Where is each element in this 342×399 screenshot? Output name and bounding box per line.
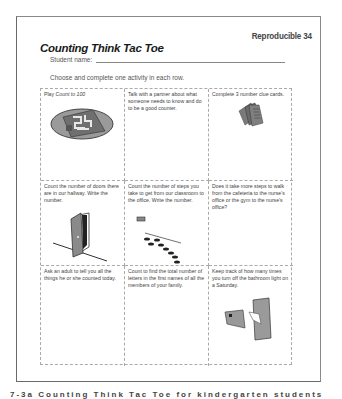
activity-cell-1: Play Count to 100 — [41, 89, 125, 181]
reproducible-label: Reproducible 34 — [252, 30, 312, 41]
activity-text: Count to find the total number of letter… — [128, 268, 205, 289]
think-tac-toe-grid: Play Count to 100 Talk with a partner ab… — [40, 88, 292, 365]
footsteps-icon — [135, 213, 195, 265]
activity-text: Does it take more steps to walk from the… — [212, 183, 290, 211]
activity-text: Count the number of steps you take to ge… — [128, 183, 205, 204]
light-switch-icon — [223, 296, 283, 344]
activity-cell-9: Keep track of how many times you turn of… — [209, 266, 293, 366]
activity-text: Talk with a partner about what someone n… — [128, 91, 205, 112]
activity-cell-3: Complete 3 number clue cards. — [209, 89, 293, 181]
page-title: Counting Think Tac Toe — [40, 42, 164, 54]
activity-cell-2: Talk with a partner about what someone n… — [125, 89, 209, 181]
student-name-label: Student name: — [50, 56, 92, 63]
student-name-field[interactable] — [96, 56, 285, 63]
activity-text: Complete 3 number clue cards. — [212, 91, 290, 98]
activity-cell-6: Does it take more steps to walk from the… — [209, 181, 293, 266]
instructions: Choose and complete one activity in each… — [50, 74, 184, 81]
activity-text: Ask an adult to tell you all the things … — [44, 268, 121, 282]
activity-cell-7: Ask an adult to tell you all the things … — [41, 266, 125, 366]
activity-cell-5: Count the number of steps you take to ge… — [125, 181, 209, 266]
student-name-row: Student name: — [50, 56, 285, 63]
activity-text: Count the number of doors there are in o… — [44, 183, 121, 204]
board-game-icon — [49, 107, 115, 141]
activity-cell-4: Count the number of doors there are in o… — [41, 181, 125, 266]
door-icon — [51, 211, 111, 263]
activity-text: Play Count to 100 — [44, 91, 121, 98]
cards-icon — [237, 101, 265, 129]
activity-text: Keep track of how many times you turn of… — [212, 268, 290, 289]
figure-caption: 7-3a Counting Think Tac Toe for kinderga… — [10, 390, 340, 399]
activity-cell-8: Count to find the total number of letter… — [125, 266, 209, 366]
